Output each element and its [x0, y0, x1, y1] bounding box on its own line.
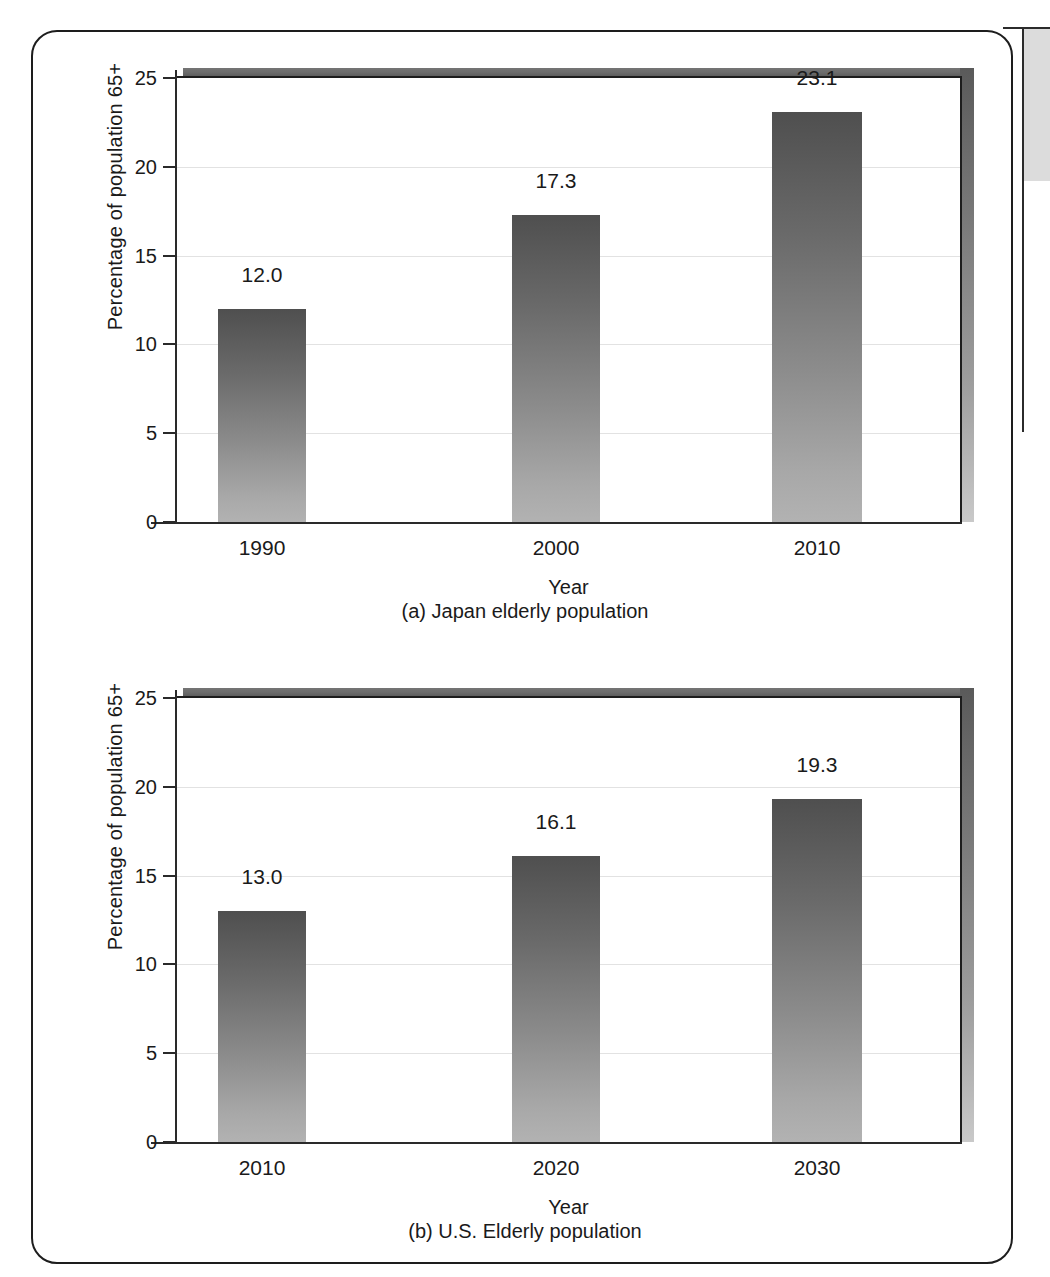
- plot-frame-top-shadow-b: [183, 688, 966, 696]
- plot-border-top-b: [177, 696, 962, 698]
- chart-panel-b: Percentage of population 65+ 0 5 10: [0, 620, 1050, 1260]
- y-tick-label-5-a: 5: [146, 422, 157, 445]
- x-tick-label-a-2: 2000: [533, 536, 580, 560]
- y-tick-label-25-b: 25: [135, 687, 157, 710]
- x-axis-line-b: [151, 1142, 962, 1144]
- bar-value-a-2: 17.3: [536, 169, 577, 193]
- bar-chart-us: Percentage of population 65+ 0 5 10: [0, 620, 1050, 1180]
- bar-a-3: [772, 112, 862, 522]
- x-tick-label-b-1: 2010: [239, 1156, 286, 1180]
- bar-chart-japan: Percentage of population 65+ 0 5 10: [0, 0, 1050, 560]
- y-axis-line-b: [175, 690, 177, 1142]
- bar-b-1: [218, 911, 306, 1142]
- y-axis-line-a: [175, 70, 177, 522]
- bar-value-a-1: 12.0: [242, 263, 283, 287]
- plot-area-a: 0 5 10 15 20: [177, 78, 960, 522]
- plot-border-right-a: [960, 76, 962, 522]
- x-tick-label-a-3: 2010: [794, 536, 841, 560]
- y-tick-label-15-b: 15: [135, 864, 157, 887]
- y-tick-label-10-a: 10: [135, 333, 157, 356]
- plot-border-top-a: [177, 76, 962, 78]
- x-axis-title-b: Year: [177, 1196, 960, 1219]
- plot-frame-right-shadow-a: [960, 68, 974, 522]
- y-tick-label-10-b: 10: [135, 953, 157, 976]
- y-tick-label-5-b: 5: [146, 1042, 157, 1065]
- y-tick-label-15-a: 15: [135, 244, 157, 267]
- y-tick-label-0-b: 0: [146, 1131, 157, 1154]
- bar-value-a-3: 23.1: [797, 66, 838, 90]
- x-axis-title-a: Year: [177, 576, 960, 599]
- plot-border-right-b: [960, 696, 962, 1142]
- y-tick-label-20-a: 20: [135, 155, 157, 178]
- bar-a-2: [512, 215, 600, 522]
- bar-a-1: [218, 309, 306, 522]
- x-tick-label-a-1: 1990: [239, 536, 286, 560]
- y-axis-title-b: Percentage of population 65+: [104, 617, 127, 1017]
- y-tick-label-20-b: 20: [135, 775, 157, 798]
- chart-panel-a: Percentage of population 65+ 0 5 10: [0, 0, 1050, 640]
- y-tick-label-25-a: 25: [135, 67, 157, 90]
- bar-value-b-2: 16.1: [536, 810, 577, 834]
- y-axis-title-a: Percentage of population 65+: [104, 0, 127, 397]
- panel-caption-b: (b) U.S. Elderly population: [0, 1220, 1050, 1243]
- x-tick-label-b-3: 2030: [794, 1156, 841, 1180]
- plot-area-b: 0 5 10 15 20: [177, 698, 960, 1142]
- x-tick-label-b-2: 2020: [533, 1156, 580, 1180]
- plot-frame-top-shadow-a: [183, 68, 966, 76]
- x-axis-line-a: [151, 522, 962, 524]
- bar-b-3: [772, 799, 862, 1142]
- plot-frame-right-shadow-b: [960, 688, 974, 1142]
- bar-value-b-3: 19.3: [797, 753, 838, 777]
- y-tick-label-0-a: 0: [146, 511, 157, 534]
- bar-value-b-1: 13.0: [242, 865, 283, 889]
- bar-b-2: [512, 856, 600, 1142]
